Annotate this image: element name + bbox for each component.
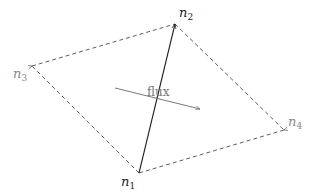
node-label-n1: n1: [121, 174, 135, 191]
dashed-edge-n3-n2: [32, 24, 175, 66]
dashed-edge-n2-n4: [175, 24, 284, 130]
node-label-n3: n3: [13, 66, 27, 83]
diagram-canvas: flux n1 n2 n3 n4: [0, 0, 319, 196]
dashed-edge-n4-n1: [139, 130, 284, 173]
flux-label: flux: [147, 85, 170, 99]
node-label-n2: n2: [179, 5, 193, 22]
dashed-edge-n1-n3: [32, 66, 139, 173]
node-label-n4: n4: [288, 114, 302, 131]
